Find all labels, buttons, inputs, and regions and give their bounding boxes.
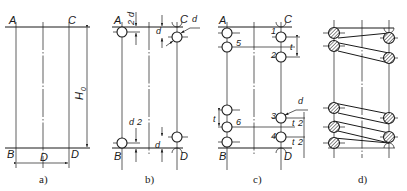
point-b-label: B <box>7 148 14 160</box>
point-d-label: D <box>180 150 188 162</box>
panel-d: d) <box>323 20 398 186</box>
half-d-num-bottom: d <box>129 117 135 127</box>
half-d-den-bottom: 2 <box>136 117 142 127</box>
circle-number-1: 1 <box>271 26 276 36</box>
pitch-label-left: t <box>213 114 216 124</box>
caption-c: c) <box>253 173 262 186</box>
point-b-label: B <box>219 150 226 162</box>
point-a-label: A <box>8 14 16 26</box>
half-t-num-2: t <box>292 137 295 147</box>
wire-d-label: d <box>298 96 304 106</box>
caption-a: a) <box>39 173 48 186</box>
panel-c: 5 6 t 1 2 t 3 4 d t 2 t 2 A C <box>213 13 308 186</box>
height-sub-label: 0 <box>80 87 87 91</box>
point-b-label: B <box>114 150 121 162</box>
circle-number-4: 4 <box>271 131 276 141</box>
point-a-label: A <box>113 14 121 26</box>
point-a-label: A <box>218 14 226 26</box>
panel-a: A C B D D H 0 a) <box>5 14 90 186</box>
half-t-den-2: 2 <box>297 137 303 147</box>
point-d-label: D <box>284 150 292 162</box>
circle-number-6: 6 <box>236 117 241 127</box>
point-c-label: C <box>180 13 188 25</box>
caption-b: b) <box>145 173 155 186</box>
half-d-den-top: 2 <box>126 20 136 26</box>
point-c-label: C <box>284 13 292 25</box>
panel-b: d 2 d d d 2 d A C B D b) <box>112 11 200 186</box>
height-label: H <box>73 92 85 100</box>
diameter-label: D <box>40 151 48 163</box>
half-t-num-1: t <box>292 118 295 128</box>
spring-drawing-diagram: A C B D D H 0 a) d 2 d d <box>0 0 407 191</box>
half-d-num-top: d <box>126 11 136 17</box>
point-c-label: C <box>68 14 76 26</box>
point-d-label: D <box>71 148 79 160</box>
caption-d: d) <box>358 173 368 186</box>
circle-number-5: 5 <box>236 38 242 48</box>
wire-d-label: d <box>192 14 198 24</box>
circle-number-3: 3 <box>271 111 276 121</box>
half-t-den-1: 2 <box>297 118 303 128</box>
circle-number-2: 2 <box>270 50 276 60</box>
